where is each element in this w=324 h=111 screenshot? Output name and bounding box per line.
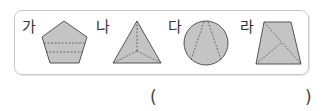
trapezoid-icon[interactable]: [254, 20, 304, 66]
choice-label-da: 다: [168, 19, 182, 35]
answer-close-paren: ): [305, 87, 312, 107]
pentagon-icon[interactable]: [40, 19, 90, 65]
triangle-icon[interactable]: [111, 19, 163, 65]
choice-label-ra: 라: [240, 19, 254, 35]
circle-icon[interactable]: [182, 20, 230, 66]
choice-label-na: 나: [96, 19, 110, 35]
answer-open-paren: (: [150, 87, 157, 107]
choice-label-ga: 가: [22, 19, 36, 35]
answer-blank[interactable]: [162, 88, 302, 106]
